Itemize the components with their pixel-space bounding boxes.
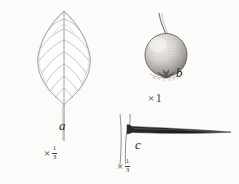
fruit-highlight: [149, 38, 167, 53]
scale-annotation-b: × 1: [148, 92, 162, 104]
thorn-node: [127, 125, 132, 134]
multiplication-sign: ×: [44, 148, 50, 159]
fraction-one-third: 1 3: [52, 145, 58, 161]
multiplication-sign: ×: [117, 161, 123, 172]
scale-annotation-c: × 1 3: [117, 158, 130, 174]
figure-label-b: b: [176, 66, 183, 79]
figure-label-a: a: [59, 119, 66, 132]
multiplication-sign: ×: [148, 93, 154, 104]
fraction-denominator: 3: [125, 167, 131, 175]
scale-annotation-a: × 1 3: [44, 145, 57, 161]
fraction-denominator: 3: [52, 154, 58, 162]
scale-whole-number: 1: [156, 92, 162, 104]
twig-left-edge: [120, 114, 121, 164]
fraction-one-third: 1 3: [125, 158, 131, 174]
botanical-plate: a b c × 1 3 × 1 × 1 3: [0, 0, 239, 184]
figure-label-c: c: [135, 138, 141, 151]
plate-illustration: [0, 0, 239, 184]
fruit-pedicel: [159, 13, 167, 36]
